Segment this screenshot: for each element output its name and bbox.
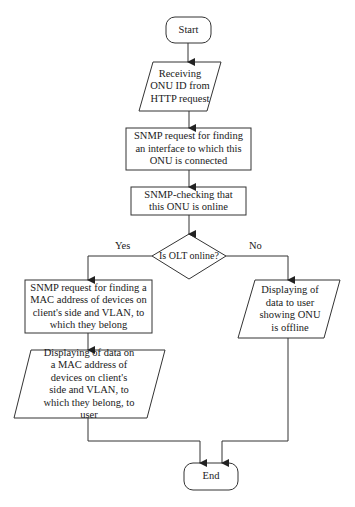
arrow-display-mac-end — [88, 418, 200, 463]
arrow-yes-branch — [88, 256, 152, 280]
display-offline-label: Displaying of data to user showing ONU i… — [258, 280, 322, 338]
snmp-mac-label: SNMP request for finding a MAC address o… — [27, 280, 150, 333]
display-mac-label: Displaying of data on a MAC address of d… — [42, 350, 136, 418]
start-label: Start — [166, 17, 211, 43]
yes-edge-label: Yes — [115, 240, 130, 251]
end-label: End — [184, 463, 238, 490]
decision-label: Is OLT online? — [152, 234, 226, 279]
snmp-check-label: SNMP-checking that this ONU is online — [140, 187, 237, 215]
no-edge-label: No — [249, 240, 262, 251]
arrow-no-branch — [226, 256, 288, 280]
receive-label: Receiving ONU ID from HTTP request — [150, 62, 210, 111]
snmp-interface-label: SNMP request for finding an interface to… — [128, 128, 249, 170]
arrow-offline-end — [222, 338, 288, 463]
